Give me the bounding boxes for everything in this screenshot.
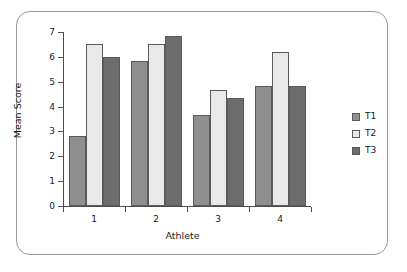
y-axis-tick-label: 2	[41, 152, 55, 161]
bar-T1-athlete-2	[131, 61, 148, 206]
x-axis-tick	[187, 207, 188, 212]
y-axis-tick-label: 1	[41, 177, 55, 186]
bar-T1-athlete-3	[193, 115, 210, 206]
x-axis-tick-label: 2	[141, 215, 171, 224]
legend-swatch-icon	[352, 113, 360, 121]
x-axis-title: Athlete	[55, 230, 310, 241]
x-axis-tick	[125, 207, 126, 212]
bar-T3-athlete-3	[227, 98, 244, 206]
y-axis-tick	[58, 156, 63, 157]
bar-T2-athlete-2	[148, 44, 165, 206]
y-axis-tick-label: 4	[41, 103, 55, 112]
y-axis-title: Mean Score	[12, 76, 23, 146]
y-axis-tick	[58, 131, 63, 132]
x-axis-tick	[63, 207, 64, 212]
x-axis-tick-label: 4	[265, 215, 295, 224]
bar-T3-athlete-2	[165, 36, 182, 206]
y-axis-tick	[58, 82, 63, 83]
bar-T3-athlete-1	[103, 57, 120, 206]
y-axis-tick	[58, 181, 63, 182]
y-axis-tick-label: 5	[41, 78, 55, 87]
y-axis-tick-label: 3	[41, 127, 55, 136]
bar-T1-athlete-4	[255, 86, 272, 206]
x-axis-tick	[311, 207, 312, 212]
legend-label: T1	[365, 112, 376, 121]
y-axis-tick-label: 6	[41, 53, 55, 62]
y-axis-tick	[58, 57, 63, 58]
y-axis-tick	[58, 107, 63, 108]
x-axis-tick	[249, 207, 250, 212]
legend-label: T2	[365, 129, 376, 138]
y-axis-tick	[58, 32, 63, 33]
legend-item-T1: T1	[352, 108, 376, 125]
bar-T2-athlete-3	[210, 90, 227, 206]
legend-item-T2: T2	[352, 125, 376, 142]
x-axis-tick-label: 1	[79, 215, 109, 224]
bar-T2-athlete-4	[272, 52, 289, 206]
legend-label: T3	[365, 146, 376, 155]
legend-swatch-icon	[352, 130, 360, 138]
bar-T3-athlete-4	[289, 86, 306, 206]
y-axis-tick-label: 7	[41, 28, 55, 37]
legend-swatch-icon	[352, 147, 360, 155]
bar-T2-athlete-1	[86, 44, 103, 206]
bar-T1-athlete-1	[69, 136, 86, 206]
legend-item-T3: T3	[352, 142, 376, 159]
x-axis-tick-label: 3	[203, 215, 233, 224]
chart-legend: T1T2T3	[352, 108, 376, 159]
y-axis-line	[63, 32, 64, 207]
y-axis-tick-label: 0	[41, 202, 55, 211]
grouped-bar-chart: Mean Score Athlete 01234567 1234 T1T2T3	[0, 0, 407, 272]
